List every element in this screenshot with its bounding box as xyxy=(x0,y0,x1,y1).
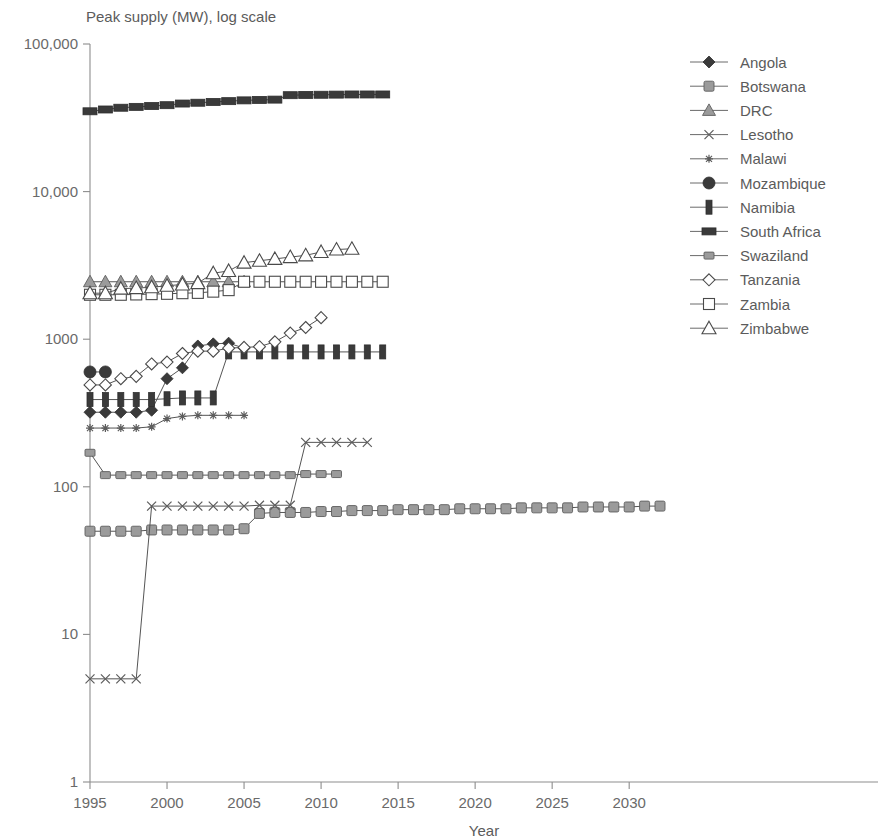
data-point xyxy=(208,286,219,297)
data-point xyxy=(84,275,97,287)
data-point xyxy=(378,506,388,516)
legend-label: South Africa xyxy=(740,223,822,240)
marker xyxy=(114,104,128,111)
data-point xyxy=(176,348,188,360)
data-point xyxy=(409,505,419,515)
marker xyxy=(117,424,125,432)
legend-item-zimbabwe[interactable]: Zimbabwe xyxy=(690,320,809,337)
marker xyxy=(284,327,296,339)
data-point xyxy=(333,345,339,359)
marker xyxy=(532,503,542,513)
marker xyxy=(362,506,372,516)
marker xyxy=(147,525,157,535)
marker xyxy=(131,472,141,479)
data-point xyxy=(116,526,126,536)
data-point xyxy=(145,103,159,110)
data-point xyxy=(349,345,355,359)
marker xyxy=(253,341,265,353)
data-point xyxy=(316,507,326,517)
marker xyxy=(194,411,202,419)
data-point xyxy=(115,406,127,418)
data-point xyxy=(224,472,234,479)
legend-item-botswana[interactable]: Botswana xyxy=(690,78,807,95)
marker xyxy=(191,99,205,106)
data-point xyxy=(162,525,172,535)
marker xyxy=(99,406,111,418)
data-point xyxy=(269,276,280,287)
legend-label: Angola xyxy=(740,54,787,71)
marker xyxy=(240,411,248,419)
data-point xyxy=(331,276,342,287)
marker xyxy=(703,177,715,189)
marker xyxy=(149,393,155,407)
data-point xyxy=(193,525,203,535)
legend-item-tanzania[interactable]: Tanzania xyxy=(690,271,801,288)
data-point xyxy=(578,502,588,512)
data-point xyxy=(393,505,403,515)
marker xyxy=(314,91,328,98)
marker xyxy=(177,472,187,479)
marker xyxy=(316,471,326,478)
legend-label: DRC xyxy=(740,102,773,119)
legend-item-zambia[interactable]: Zambia xyxy=(690,296,791,313)
data-point xyxy=(287,345,293,359)
marker xyxy=(164,392,170,406)
marker xyxy=(239,524,249,534)
legend-item-mozambique[interactable]: Mozambique xyxy=(690,175,826,192)
legend-label: Mozambique xyxy=(740,175,826,192)
data-point xyxy=(191,99,205,106)
data-point xyxy=(346,276,357,287)
legend-item-drc[interactable]: DRC xyxy=(690,102,773,119)
data-point xyxy=(132,424,140,432)
marker xyxy=(393,505,403,515)
legend-item-lesotho[interactable]: Lesotho xyxy=(690,126,793,143)
data-point xyxy=(593,502,603,512)
x-tick-label: 2025 xyxy=(535,794,568,811)
legend-item-south-africa[interactable]: South Africa xyxy=(690,223,822,240)
legend-item-angola[interactable]: Angola xyxy=(690,54,787,71)
data-point xyxy=(85,526,95,536)
series-layer xyxy=(83,91,665,683)
data-point xyxy=(224,525,234,535)
data-point xyxy=(315,312,327,324)
legend-marker xyxy=(705,155,713,163)
data-point xyxy=(424,505,434,515)
data-point xyxy=(130,406,142,418)
legend-item-malawi[interactable]: Malawi xyxy=(690,150,787,167)
marker xyxy=(206,98,220,105)
chart-container: 110100100010,000100,00019952000200520102… xyxy=(0,0,886,840)
series-line xyxy=(90,249,352,293)
data-point xyxy=(177,472,187,479)
data-point xyxy=(209,411,217,419)
data-point xyxy=(99,275,112,287)
data-point xyxy=(163,415,171,423)
legend-item-swaziland[interactable]: Swaziland xyxy=(690,247,808,264)
data-point xyxy=(101,424,109,432)
marker xyxy=(470,504,480,514)
y-tick-label: 100 xyxy=(53,478,78,495)
marker xyxy=(703,274,715,286)
marker xyxy=(301,507,311,517)
y-tick-label: 10,000 xyxy=(32,183,78,200)
marker xyxy=(163,415,171,423)
data-point xyxy=(301,507,311,517)
marker xyxy=(269,336,281,348)
marker xyxy=(704,252,714,259)
data-point xyxy=(253,341,265,353)
legend-marker xyxy=(703,104,716,116)
data-point xyxy=(223,285,234,296)
marker xyxy=(380,345,386,359)
marker xyxy=(148,423,156,431)
marker xyxy=(84,366,96,378)
data-point xyxy=(516,503,526,513)
marker xyxy=(329,91,343,98)
y-tick-label: 1000 xyxy=(45,330,78,347)
marker xyxy=(100,526,110,536)
legend-item-namibia[interactable]: Namibia xyxy=(690,199,796,216)
marker xyxy=(300,322,312,334)
marker xyxy=(161,373,173,385)
marker xyxy=(624,502,634,512)
x-tick-label: 2030 xyxy=(613,794,646,811)
data-point xyxy=(486,504,496,514)
data-point xyxy=(439,505,449,515)
